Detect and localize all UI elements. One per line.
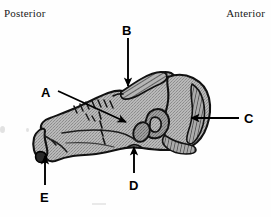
orientation-label-anterior: Anterior xyxy=(226,8,265,19)
callout-label-b: B xyxy=(122,24,131,37)
figure-canvas: Posterior Anterior A B C D E xyxy=(0,0,271,217)
orientation-label-posterior: Posterior xyxy=(4,8,46,19)
callout-label-e: E xyxy=(40,191,49,204)
callout-label-c: C xyxy=(244,112,253,125)
callout-label-d: D xyxy=(129,179,138,192)
bone-body xyxy=(33,72,210,162)
callout-label-a: A xyxy=(41,86,50,99)
